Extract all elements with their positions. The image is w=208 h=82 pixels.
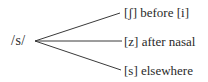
branch-label-voiced: [z] after nasal bbox=[124, 35, 195, 48]
branch-label-palatal: [ʃ] before [i] bbox=[124, 6, 189, 19]
branch-label-elsewhere: [s] elsewhere bbox=[124, 64, 193, 77]
allophone-diagram: /s/ [ʃ] before [i] [z] after nasal [s] e… bbox=[0, 0, 208, 82]
branch-line-top bbox=[35, 13, 120, 41]
branch-line-bottom bbox=[35, 41, 121, 70]
root-phoneme: /s/ bbox=[11, 34, 26, 47]
